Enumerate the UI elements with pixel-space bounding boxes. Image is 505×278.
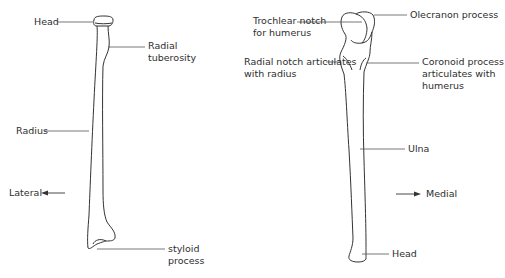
radius-head-label: Head xyxy=(34,16,59,28)
coronoid-process-line-3: humerus xyxy=(422,80,504,92)
radial-notch-line-2: with radius xyxy=(244,68,357,80)
coronoid-process-line-1: Coronoid process xyxy=(422,56,504,68)
bone-diagram xyxy=(0,0,505,278)
leader-lines xyxy=(44,15,419,254)
ulna-bone xyxy=(340,12,375,262)
radial-notch-line-1: Radial notch articulates xyxy=(244,56,357,68)
radius-label: Radius xyxy=(16,125,48,137)
ulna-head-label: Head xyxy=(392,248,417,260)
radial-notch-label: Radial notch articulates with radius xyxy=(244,56,357,80)
radius-bone xyxy=(88,16,116,249)
lateral-arrow xyxy=(41,191,65,196)
radial-tuberosity-line-2: tuberosity xyxy=(148,52,196,64)
coronoid-process-label: Coronoid process articulates with humeru… xyxy=(422,56,504,92)
lateral-label: Lateral xyxy=(9,187,42,199)
medial-label: Medial xyxy=(426,188,457,200)
ulna-label: Ulna xyxy=(408,143,429,155)
trochlear-notch-label: Trochlear notch for humerus xyxy=(253,15,326,39)
olecranon-process-label: Olecranon process xyxy=(410,9,498,21)
trochlear-notch-line-1: Trochlear notch xyxy=(253,15,326,27)
radial-tuberosity-line-1: Radial xyxy=(148,40,196,52)
styloid-process-line-2: process xyxy=(168,255,205,267)
coronoid-process-line-2: articulates with xyxy=(422,68,504,80)
radial-tuberosity-label: Radial tuberosity xyxy=(148,40,196,64)
styloid-process-line-1: styloid xyxy=(168,243,205,255)
medial-arrow xyxy=(396,192,421,197)
styloid-process-label: styloid process xyxy=(168,243,205,267)
trochlear-notch-line-2: for humerus xyxy=(253,27,326,39)
